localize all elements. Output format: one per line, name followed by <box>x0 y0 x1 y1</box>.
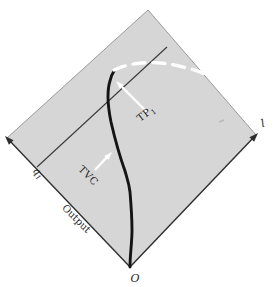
labor-axis-label: l <box>259 117 267 131</box>
origin-label: O <box>130 272 139 285</box>
figure-container: O l Output q1 TP1 TVC <box>0 0 277 287</box>
diagram-canvas: O l Output q1 TP1 TVC <box>0 0 277 287</box>
